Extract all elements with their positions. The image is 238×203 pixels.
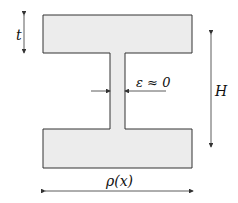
epsilon-label: ε ≈ 0: [136, 76, 170, 89]
t-label: t: [16, 28, 22, 42]
h-label: H: [215, 84, 227, 98]
i-beam-shape: [43, 15, 192, 168]
rho-label: ρ(x): [106, 174, 133, 188]
